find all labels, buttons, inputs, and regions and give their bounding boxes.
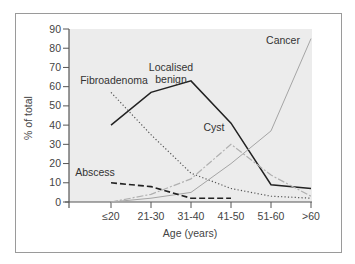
- y-tick-label: 90: [49, 23, 61, 35]
- series-label-fibroadenoma: Fibroadenoma: [80, 74, 148, 86]
- x-axis-title: Age (years): [163, 227, 217, 239]
- series-label-cyst: Cyst: [204, 121, 225, 133]
- x-tick-label: 21-30: [138, 210, 165, 222]
- y-tick-label: 60: [49, 80, 61, 92]
- series-label-localised-benign: Localised: [149, 61, 194, 73]
- y-tick-label: 40: [49, 119, 61, 131]
- y-tick-label: 10: [49, 176, 61, 188]
- x-tick-label: 51-60: [258, 210, 285, 222]
- x-tick-label: 31-40: [178, 210, 205, 222]
- y-tick-label: 0: [55, 196, 61, 208]
- line-chart: 0102030405060708090≤2021-3031-4041-5051-…: [0, 0, 355, 264]
- series-label-cancer: Cancer: [266, 34, 300, 46]
- series-label-abscess: Abscess: [75, 166, 115, 178]
- series-label-localised-benign: benign: [155, 73, 187, 85]
- y-axis-title: % of total: [22, 96, 34, 140]
- x-tick-label: ≤20: [102, 210, 120, 222]
- y-tick-label: 20: [49, 157, 61, 169]
- y-tick-label: 50: [49, 99, 61, 111]
- y-tick-label: 30: [49, 138, 61, 150]
- x-tick-label: >60: [302, 210, 320, 222]
- x-tick-label: 41-50: [218, 210, 245, 222]
- y-tick-label: 70: [49, 61, 61, 73]
- y-tick-label: 80: [49, 42, 61, 54]
